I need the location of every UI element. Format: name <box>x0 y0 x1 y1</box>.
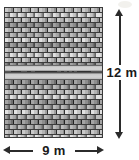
brick-wall-rectangle <box>4 7 103 138</box>
band-speck <box>35 71 57 72</box>
arrow-right-head-icon <box>97 146 104 154</box>
concrete-band <box>5 65 102 80</box>
height-label: 12 m <box>105 65 139 80</box>
arrow-down-head-icon <box>115 132 123 139</box>
band-speck <box>27 71 31 72</box>
band-speck <box>72 71 74 72</box>
band-speck <box>11 71 21 72</box>
width-label: 9 m <box>33 143 75 158</box>
band-speck <box>77 71 91 72</box>
diagram-canvas: 12 m 9 m <box>0 0 139 160</box>
brick-field-lower <box>5 80 102 137</box>
brick-field-upper <box>5 8 102 65</box>
scan-artifact <box>118 1 132 8</box>
band-speck <box>67 71 69 72</box>
brick-course <box>5 135 102 137</box>
band-speck <box>61 71 64 72</box>
